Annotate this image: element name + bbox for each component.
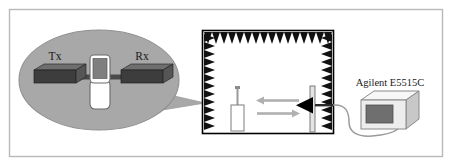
ota-measurement-diagram: Tx Rx [0,0,452,166]
agilent-e5515c [361,91,419,129]
rx-label: Rx [135,50,149,62]
mobile-handset [90,55,110,109]
instrument-screen [366,105,393,123]
tx-label: Tx [49,50,62,62]
instrument-label: Agilent E5515C [356,77,425,88]
figure-container: Tx Rx [0,0,452,166]
handset-screen [93,59,107,79]
anechoic-chamber [203,31,334,134]
